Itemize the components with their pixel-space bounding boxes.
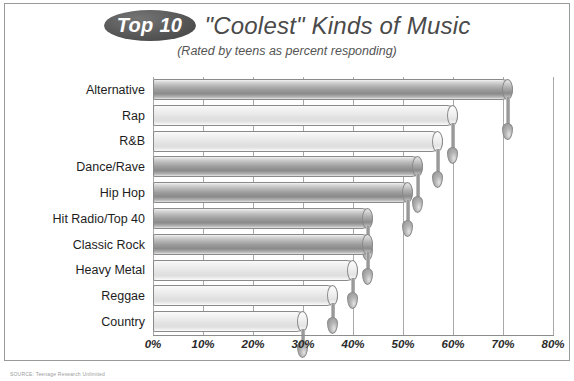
bar [153,311,308,332]
x-tick-label: 10% [191,338,214,350]
category-label: Dance/Rave [76,154,145,180]
bar [153,285,338,306]
category-label: Country [101,309,145,335]
bar [153,208,373,229]
chart-panel: Top 10 "Coolest" Kinds of Music (Rated b… [4,3,570,361]
bar-row: Dance/Rave [153,154,553,180]
chart-subtitle: (Rated by teens as percent responding) [5,44,569,58]
category-label: Rap [122,103,145,129]
top10-badge-label: Top 10 [117,15,183,37]
bar [153,156,423,177]
bar-row: Hit Radio/Top 40 [153,206,553,232]
bar [153,131,443,152]
plot-area: AlternativeRapR&BDance/RaveHip HopHit Ra… [153,77,553,335]
bar-row: Country [153,309,553,335]
x-tick-label: 80% [541,338,564,350]
title-block: Top 10 "Coolest" Kinds of Music (Rated b… [5,10,569,58]
bar-row: Reggae [153,283,553,309]
x-tick-label: 70% [491,338,514,350]
bar [153,182,413,203]
bar [153,79,513,100]
title-row: Top 10 "Coolest" Kinds of Music [5,10,569,41]
x-tick-label: 20% [241,338,264,350]
gridline-80 [553,77,554,335]
bar-row: Classic Rock [153,232,553,258]
bar-row: Heavy Metal [153,258,553,284]
category-label: Alternative [86,77,145,103]
bar [153,234,373,255]
bar-row: R&B [153,129,553,155]
x-tick-label: 30% [291,338,314,350]
x-axis-tick-labels: 0%10%20%30%40%50%60%70%80% [153,338,553,356]
bar-row: Hip Hop [153,180,553,206]
category-label: R&B [119,129,145,155]
category-label: Heavy Metal [76,258,145,284]
x-tick-label: 60% [441,338,464,350]
category-label: Hit Radio/Top 40 [53,206,145,232]
top10-badge: Top 10 [104,10,196,41]
x-tick-label: 50% [391,338,414,350]
page-title: "Coolest" Kinds of Music [205,12,471,40]
bar [153,105,458,126]
x-tick-label: 40% [341,338,364,350]
category-label: Classic Rock [73,232,145,258]
x-tick-label: 0% [145,338,162,350]
bar [153,260,358,281]
x-axis-line [153,335,554,336]
source-note: SOURCE: Teenage Research Unlimited [10,371,105,377]
category-label: Hip Hop [100,180,145,206]
bar-row: Rap [153,103,553,129]
category-label: Reggae [101,283,145,309]
bar-row: Alternative [153,77,553,103]
